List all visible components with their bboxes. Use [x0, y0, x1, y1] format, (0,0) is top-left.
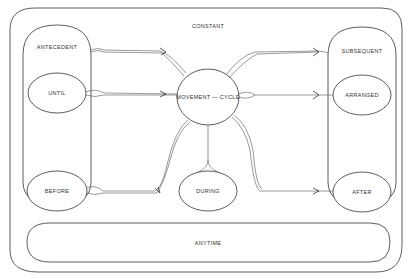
label-after: AFTER — [352, 189, 372, 195]
diagram: CONSTANT ANTECEDENT UNTIL BEFORE MOVEMEN… — [0, 0, 417, 279]
label-anytime: ANYTIME — [195, 240, 222, 246]
label-until: UNTIL — [48, 90, 65, 96]
label-arranged: ARRANGED — [345, 92, 379, 98]
label-movement-cycle: MOVEMENT — CYCLE — [176, 94, 239, 100]
diagram-canvas — [0, 0, 417, 279]
label-during: DURING — [196, 188, 220, 194]
label-antecedent: ANTECEDENT — [37, 44, 77, 50]
label-before: BEFORE — [45, 188, 69, 194]
label-constant: CONSTANT — [192, 23, 224, 29]
label-subsequent: SUBSEQUENT — [342, 48, 383, 54]
